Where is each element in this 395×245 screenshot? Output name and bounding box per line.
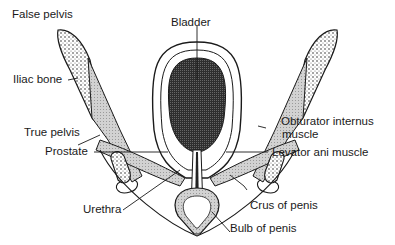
label-false-pelvis: False pelvis <box>12 8 73 21</box>
label-obturator-internus: Obturator internus <box>281 115 374 128</box>
label-obturator-internus-muscle: muscle <box>282 128 318 141</box>
label-prostate: Prostate <box>45 145 88 158</box>
label-bulb-of-penis: Bulb of penis <box>230 222 297 235</box>
label-iliac-bone: Iliac bone <box>13 73 62 86</box>
label-bladder: Bladder <box>171 16 211 29</box>
label-urethra: Urethra <box>83 203 121 216</box>
label-true-pelvis: True pelvis <box>24 126 80 139</box>
label-crus-of-penis: Crus of penis <box>250 199 318 212</box>
label-levator-ani-muscle: Levator ani muscle <box>272 146 369 159</box>
pelvis-diagram: False pelvis Bladder Iliac bone Obturato… <box>0 0 395 245</box>
